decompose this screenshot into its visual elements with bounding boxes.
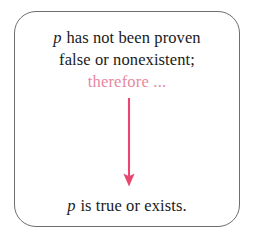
premise-line-2: false or nonexistent; bbox=[14, 49, 240, 71]
proposition-symbol-conclusion: p bbox=[67, 196, 76, 215]
premise-line-1: p has not been proven bbox=[14, 27, 240, 49]
conclusion-text: is true or exists. bbox=[76, 196, 187, 215]
premise-statement: p has not been proven false or nonexiste… bbox=[14, 27, 240, 93]
premise-line-1-text: has not been proven bbox=[62, 28, 201, 47]
therefore-label: therefore ... bbox=[14, 71, 240, 93]
downward-arrow-icon bbox=[112, 96, 146, 190]
conclusion-statement: p is true or exists. bbox=[14, 195, 240, 217]
proposition-symbol-premise: p bbox=[53, 28, 62, 47]
diagram-canvas: p has not been proven false or nonexiste… bbox=[0, 0, 257, 237]
